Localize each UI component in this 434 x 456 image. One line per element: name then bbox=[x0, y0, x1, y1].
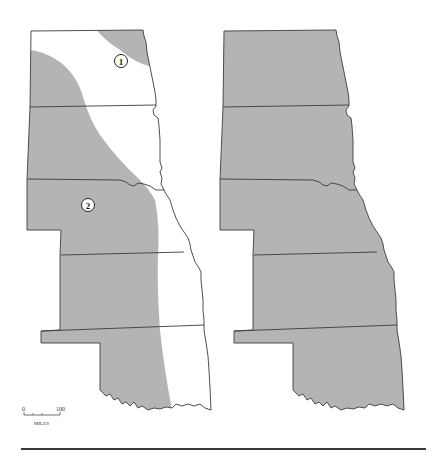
scale-max-label: 100 bbox=[56, 406, 65, 412]
scale-bar: 0 100 MILES bbox=[22, 406, 65, 426]
scale-min-label: 0 bbox=[22, 406, 25, 412]
zone-2-label: 2 bbox=[82, 199, 95, 212]
figure-maps: 1 2 0 100 MILES bbox=[0, 0, 434, 456]
right-map bbox=[220, 30, 404, 410]
svg-text:1: 1 bbox=[119, 57, 124, 67]
left-map bbox=[20, 28, 211, 420]
zone-1-label: 1 bbox=[115, 55, 128, 68]
horizontal-rule bbox=[21, 448, 426, 450]
scale-unit-label: MILES bbox=[34, 421, 49, 426]
svg-text:2: 2 bbox=[86, 201, 91, 211]
